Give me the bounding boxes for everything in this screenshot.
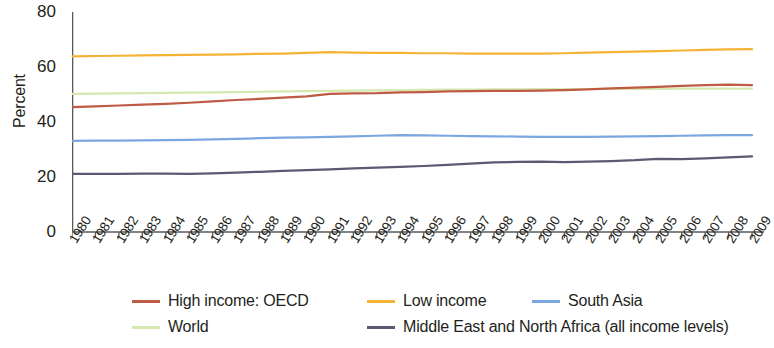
legend-label: High income: OECD [168, 292, 309, 310]
y-tick-label: 80 [22, 3, 56, 20]
legend-color-swatch [367, 300, 395, 303]
x-axis-tick-labels: 1980198119821983198419851986198719881989… [72, 238, 772, 294]
series-line [72, 156, 752, 174]
series-line [72, 49, 752, 56]
y-tick-label: 60 [22, 58, 56, 75]
legend-label: World [168, 318, 209, 336]
series-line [72, 85, 752, 108]
y-tick-label: 40 [22, 113, 56, 130]
y-axis-tick-labels: 020406080 [20, 0, 56, 240]
legend-color-swatch [532, 300, 560, 303]
legend-row-1: High income: OECDLow incomeSouth Asia [132, 290, 768, 314]
legend-item[interactable]: World [132, 316, 209, 338]
y-tick-label: 0 [22, 223, 56, 240]
legend-color-swatch [132, 326, 160, 329]
plot-area [72, 12, 764, 232]
chart-legend: High income: OECDLow incomeSouth Asia Wo… [132, 290, 768, 342]
legend-row-2: WorldMiddle East and North Africa (all i… [132, 316, 768, 340]
legend-color-swatch [132, 300, 160, 303]
legend-item[interactable]: High income: OECD [132, 290, 309, 312]
legend-item[interactable]: South Asia [532, 290, 643, 312]
legend-label: South Asia [568, 292, 643, 310]
legend-color-swatch [367, 326, 395, 329]
legend-label: Middle East and North Africa (all income… [403, 318, 729, 336]
series-line [72, 135, 752, 141]
legend-item[interactable]: Low income [367, 290, 486, 312]
legend-item[interactable]: Middle East and North Africa (all income… [367, 316, 729, 338]
y-tick-label: 20 [22, 168, 56, 185]
chart-svg [72, 12, 764, 242]
legend-label: Low income [403, 292, 486, 310]
